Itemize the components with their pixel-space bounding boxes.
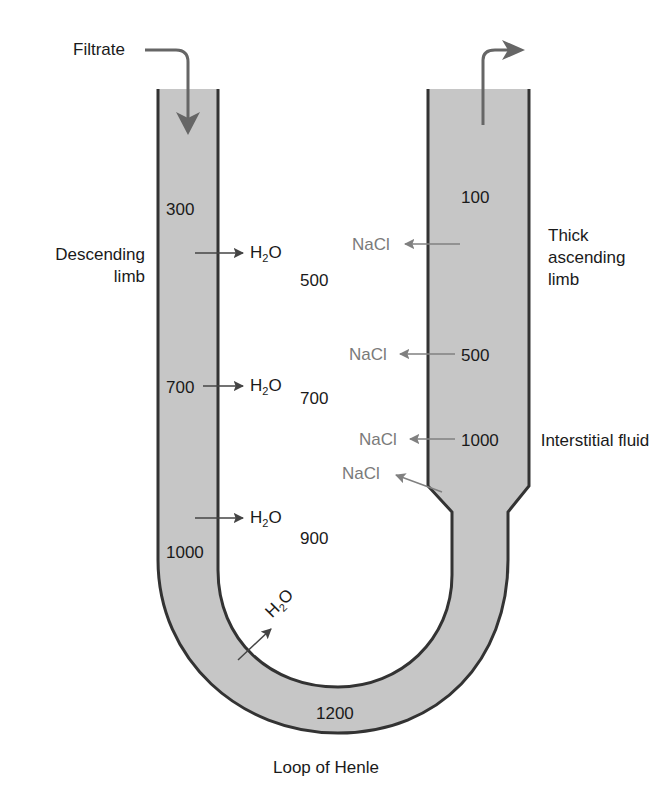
osmolarity-ascending-100: 100 — [461, 189, 489, 206]
osmolarity-descending-300: 300 — [166, 201, 194, 218]
nacl-label-2: NaCl — [349, 346, 387, 363]
nacl-label-3: NaCl — [359, 431, 397, 448]
interstitial-osmolarity-700: 700 — [300, 390, 328, 407]
osmolarity-bottom-1200: 1200 — [316, 705, 354, 722]
osmolarity-descending-1000: 1000 — [166, 544, 204, 561]
osmolarity-ascending-500: 500 — [461, 347, 489, 364]
loop-of-henle-title: Loop of Henle — [273, 759, 379, 776]
tubule-fill — [158, 89, 529, 733]
water-label-2: H2O — [250, 377, 282, 394]
interstitial-fluid-label: Interstitial fluid — [540, 430, 649, 452]
osmolarity-descending-700: 700 — [166, 379, 194, 396]
interstitial-osmolarity-900: 900 — [300, 530, 328, 547]
descending-limb-label: Descending limb — [30, 244, 145, 288]
osmolarity-ascending-1000: 1000 — [461, 432, 499, 449]
water-label-1: H2O — [250, 244, 282, 261]
water-label-3: H2O — [250, 509, 282, 526]
thick-ascending-limb-label: Thick ascending limb — [548, 225, 638, 291]
filtrate-label: Filtrate — [73, 41, 125, 58]
interstitial-osmolarity-500: 500 — [300, 272, 328, 289]
nacl-label-1: NaCl — [352, 236, 390, 253]
nacl-label-4: NaCl — [342, 465, 380, 482]
